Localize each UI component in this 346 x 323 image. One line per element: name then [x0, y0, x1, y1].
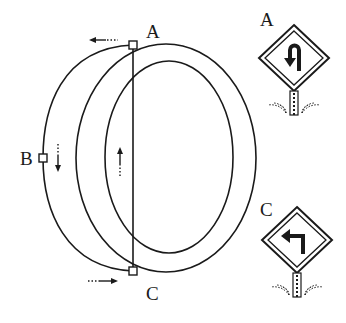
sign-a-label: A — [260, 10, 274, 29]
arrow-left-icon — [89, 37, 118, 43]
point-a-label: A — [146, 22, 160, 41]
arrow-up-icon — [117, 147, 123, 176]
inner-track-ellipse — [105, 61, 233, 253]
sign-c-label: C — [260, 200, 273, 219]
middle-track-ellipse — [76, 44, 256, 272]
point-b-marker — [39, 154, 47, 162]
track-diagram — [0, 0, 346, 323]
left-turn-sign-icon — [262, 207, 332, 297]
u-turn-left-sign-icon — [259, 25, 329, 115]
point-a-marker — [129, 41, 137, 49]
arrow-right-icon — [88, 278, 118, 284]
point-c-marker — [129, 267, 137, 275]
arrow-down-icon — [55, 144, 61, 172]
point-b-label: B — [20, 149, 33, 168]
point-c-label: C — [146, 284, 159, 303]
